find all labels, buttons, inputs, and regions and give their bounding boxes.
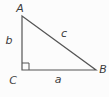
right-triangle-diagram: A B C b a c — [0, 0, 109, 97]
side-label-a: a — [55, 73, 62, 86]
triangle-outline — [22, 16, 96, 70]
right-triangle-figure: A B C b a c — [0, 0, 109, 97]
vertex-label-B: B — [99, 63, 107, 76]
vertex-label-C: C — [9, 74, 17, 87]
vertex-label-A: A — [15, 2, 24, 15]
side-label-c: c — [61, 27, 67, 40]
side-label-b: b — [6, 34, 13, 47]
right-angle-marker — [22, 63, 29, 70]
